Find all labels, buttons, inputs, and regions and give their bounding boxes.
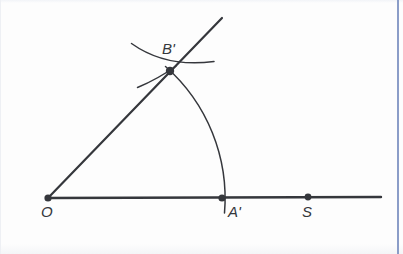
point-O-dot: [44, 194, 51, 201]
diagram-canvas: O A' S B': [0, 0, 403, 254]
point-label-o: O: [41, 203, 53, 220]
point-B-prime-dot: [166, 67, 174, 75]
point-S-dot: [305, 194, 312, 201]
point-label-b-prime: B': [162, 40, 175, 57]
compass-arc-lower-path: [138, 34, 217, 88]
base-ray-line: [48, 197, 381, 198]
main-arc-path: [166, 67, 226, 214]
point-label-s: S: [302, 203, 312, 220]
point-label-a-prime: A': [228, 203, 241, 220]
geometry-drawing: [0, 0, 403, 254]
point-A-prime-dot: [218, 194, 225, 201]
